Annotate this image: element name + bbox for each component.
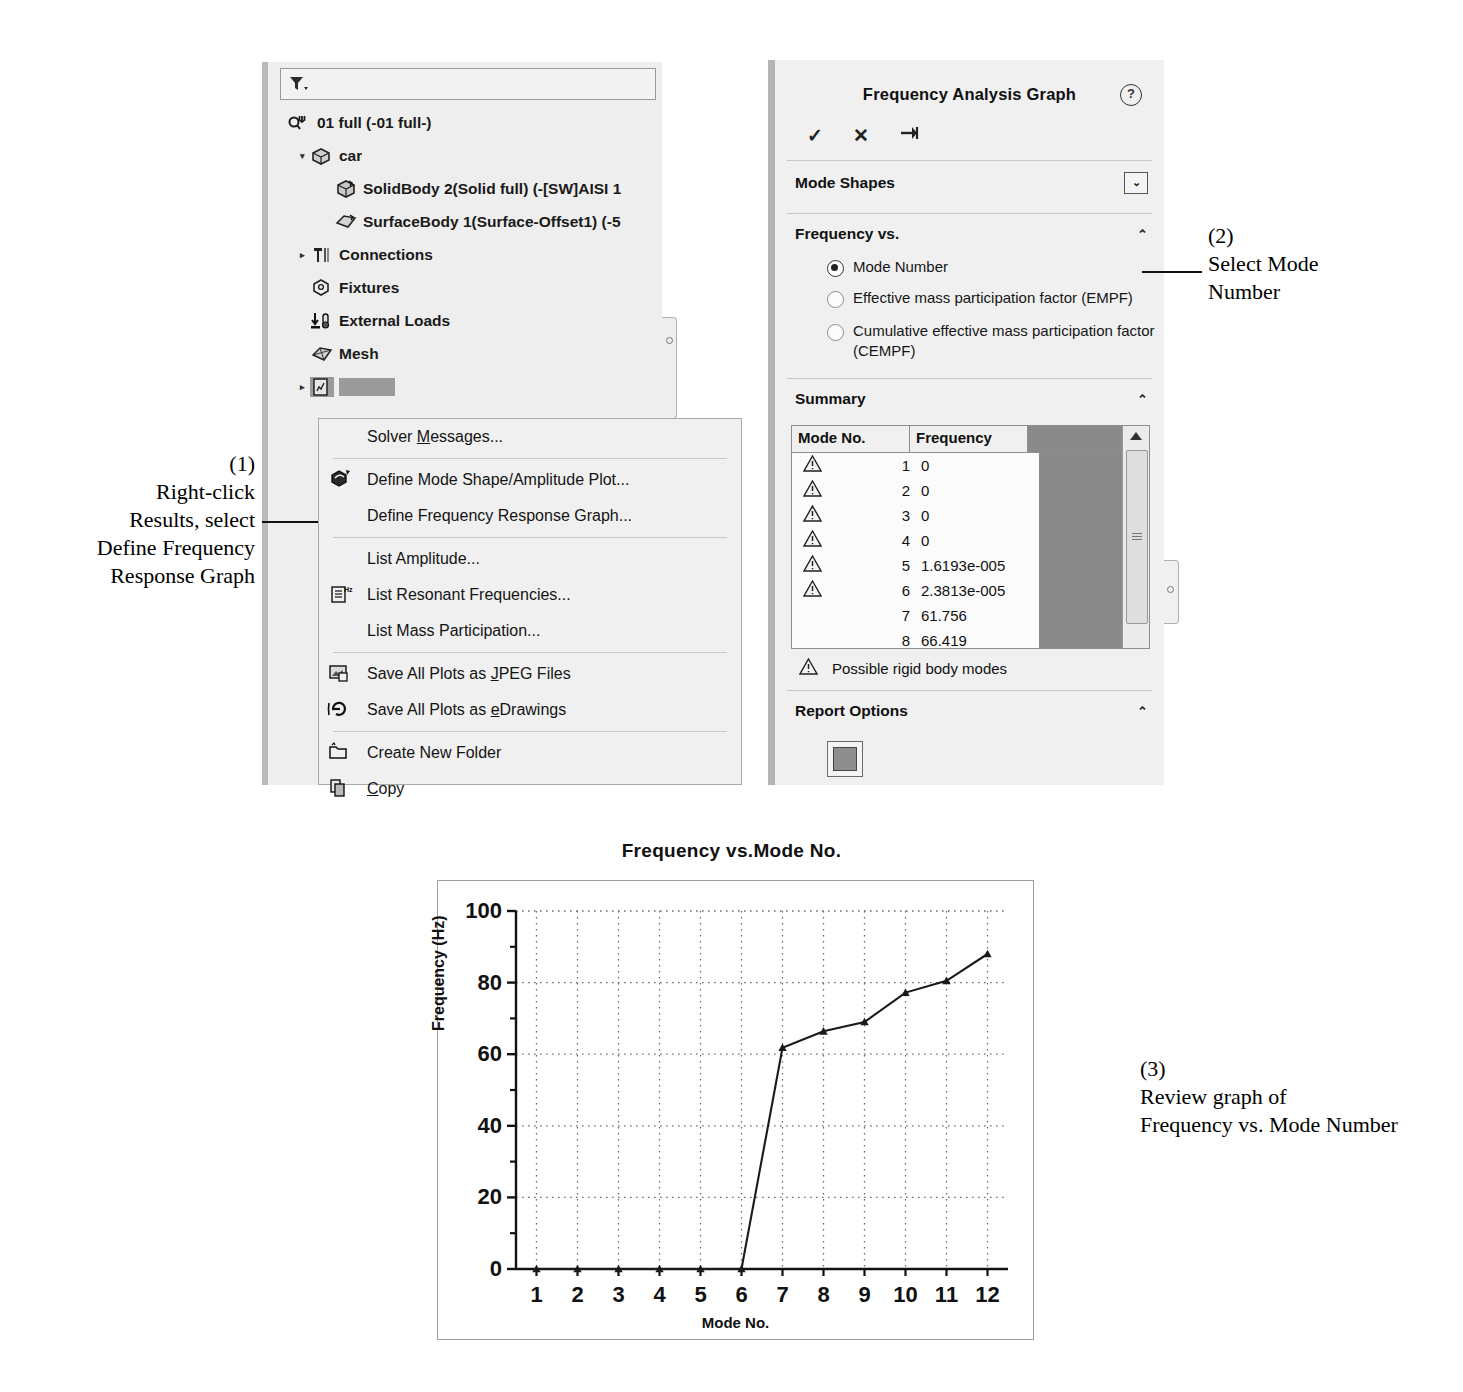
chevron-down-icon[interactable]: ⌄	[1124, 172, 1148, 194]
scrollbar-thumb[interactable]	[1126, 450, 1148, 624]
tree-item-connections[interactable]: ▸ Connections	[272, 238, 666, 271]
radio-label: Effective mass participation factor (EMP…	[853, 288, 1133, 308]
menu-item-label: Define Mode Shape/Amplitude Plot...	[365, 471, 629, 489]
menu-item-label: Define Frequency Response Graph...	[365, 507, 632, 525]
tree-item-results[interactable]: ▸ Results	[272, 370, 666, 403]
menu-item-create-new-folder[interactable]: Create New Folder	[319, 735, 741, 771]
feature-tree-list: 01 full (-01 full-) ▾ car SolidBody 2(So…	[272, 106, 666, 403]
chart-title: Frequency vs.Mode No.	[0, 840, 1463, 862]
radio-option-empf[interactable]: Effective mass participation factor (EMP…	[775, 280, 1164, 311]
table-row[interactable]: 8 66.419	[792, 628, 1149, 649]
chevron-up-icon[interactable]: ⌃	[1137, 704, 1148, 719]
cancel-x-icon[interactable]: ✕	[853, 124, 869, 147]
menu-separator	[333, 731, 727, 732]
svg-text:2: 2	[571, 1282, 583, 1307]
table-row[interactable]: 6 2.3813e-005	[792, 578, 1149, 603]
chart-y-axis-label: Frequency (Hz)	[430, 915, 448, 1031]
menu-item-save-all-plots-edrawings[interactable]: Save All Plots as eDrawings	[319, 692, 741, 728]
tree-item-external-loads[interactable]: External Loads	[272, 304, 666, 337]
cell-frequency: 0	[914, 482, 1039, 499]
external-loads-icon	[310, 311, 334, 331]
chart-data-series	[532, 950, 991, 1273]
summary-legend: Possible rigid body modes	[775, 649, 1164, 678]
cell-mode-no: 3	[832, 507, 914, 524]
tree-arrow-collapsed[interactable]: ▸	[294, 250, 310, 260]
radio-button-selected[interactable]	[827, 260, 844, 277]
cell-mode-no: 1	[832, 457, 914, 474]
section-frequency-vs[interactable]: Frequency vs. ⌃	[775, 214, 1164, 254]
help-icon[interactable]: ?	[1120, 84, 1142, 106]
tree-item-fixtures[interactable]: Fixtures	[272, 271, 666, 304]
tree-item-label: SurfaceBody 1(Surface-Offset1) (-5	[363, 213, 621, 231]
radio-button[interactable]	[827, 291, 844, 308]
ok-check-icon[interactable]: ✓	[807, 124, 823, 147]
table-row[interactable]: 3 0	[792, 503, 1149, 528]
radio-option-cempf[interactable]: Cumulative effective mass participation …	[775, 311, 1164, 364]
blank-icon	[327, 547, 361, 571]
cell-mode-no: 8	[832, 632, 914, 649]
scroll-up-arrow-icon[interactable]	[1130, 432, 1142, 440]
radio-option-mode-number[interactable]: Mode Number	[775, 254, 1164, 280]
section-title: Summary	[795, 390, 866, 408]
cell-mode-no: 2	[832, 482, 914, 499]
connections-icon	[310, 245, 334, 265]
table-row[interactable]: 2 0	[792, 478, 1149, 503]
table-scrollbar[interactable]	[1122, 426, 1149, 648]
menu-item-list-amplitude[interactable]: List Amplitude...	[319, 541, 741, 577]
tree-item-study[interactable]: 01 full (-01 full-)	[272, 106, 666, 139]
scrollbar-grip-icon	[1132, 533, 1142, 540]
svg-text:8: 8	[817, 1282, 829, 1307]
menu-item-save-all-plots-jpeg[interactable]: Save All Plots as JPEG Files	[319, 656, 741, 692]
svg-text:60: 60	[478, 1041, 502, 1066]
menu-item-define-frequency-response-graph[interactable]: Define Frequency Response Graph...	[319, 498, 741, 534]
save-report-icon	[833, 747, 857, 771]
warning-icon	[792, 505, 832, 526]
table-row[interactable]: 1 0	[792, 453, 1149, 478]
cell-frequency: 1.6193e-005	[914, 557, 1039, 574]
tree-panel-edge-tab[interactable]	[662, 317, 677, 419]
column-header-frequency: Frequency	[910, 426, 1028, 452]
svg-text:20: 20	[478, 1184, 502, 1209]
annotation-number: (1)	[40, 450, 255, 478]
tree-item-solidbody[interactable]: SolidBody 2(Solid full) (-[SW]AISI 1	[272, 172, 666, 205]
svg-text:40: 40	[478, 1113, 502, 1138]
table-row[interactable]: 4 0	[792, 528, 1149, 553]
tree-arrow-collapsed[interactable]: ▸	[294, 382, 310, 392]
chevron-up-icon[interactable]: ⌃	[1137, 227, 1148, 242]
save-jpeg-icon	[327, 662, 361, 686]
tree-filter-box[interactable]	[280, 68, 656, 100]
tree-item-mesh[interactable]: Mesh	[272, 337, 666, 370]
legend-label: Possible rigid body modes	[832, 660, 1007, 677]
menu-item-define-mode-shape-plot[interactable]: Define Mode Shape/Amplitude Plot...	[319, 462, 741, 498]
radio-button[interactable]	[827, 324, 844, 341]
pin-icon[interactable]	[899, 124, 921, 146]
save-report-button[interactable]	[827, 741, 863, 777]
menu-item-label: Solver Messages...	[365, 428, 503, 446]
tree-item-label: Mesh	[339, 345, 379, 363]
tree-item-car[interactable]: ▾ car	[272, 139, 666, 172]
table-row[interactable]: 7 61.756	[792, 603, 1149, 628]
filter-funnel-icon[interactable]	[289, 75, 309, 93]
tree-item-label: SolidBody 2(Solid full) (-[SW]AISI 1	[363, 180, 621, 198]
tree-item-surfacebody[interactable]: SurfaceBody 1(Surface-Offset1) (-5	[272, 205, 666, 238]
menu-separator	[333, 652, 727, 653]
solid-body-icon	[334, 179, 358, 199]
table-row[interactable]: 5 1.6193e-005	[792, 553, 1149, 578]
menu-item-copy[interactable]: Copy	[319, 771, 741, 807]
section-report-options[interactable]: Report Options ⌃	[775, 691, 1164, 731]
svg-text:11: 11	[935, 1282, 958, 1307]
section-summary[interactable]: Summary ⌃	[775, 379, 1164, 419]
tree-arrow-expanded[interactable]: ▾	[294, 151, 310, 161]
menu-item-list-resonant-frequencies[interactable]: Hz List Resonant Frequencies...	[319, 577, 741, 613]
svg-text:80: 80	[478, 970, 502, 995]
tree-item-label: External Loads	[339, 312, 450, 330]
menu-item-solver-messages[interactable]: Solver Messages...	[319, 419, 741, 455]
section-mode-shapes[interactable]: Mode Shapes ⌄	[775, 161, 1164, 205]
menu-item-list-mass-participation[interactable]: List Mass Participation...	[319, 613, 741, 649]
pm-panel-edge-dot	[1167, 586, 1174, 593]
chevron-up-icon[interactable]: ⌃	[1137, 392, 1148, 407]
svg-text:Hz: Hz	[344, 586, 353, 593]
table-body: 1 0 2 0 3 0 4	[792, 453, 1149, 649]
cell-mode-no: 5	[832, 557, 914, 574]
cell-mode-no: 6	[832, 582, 914, 599]
